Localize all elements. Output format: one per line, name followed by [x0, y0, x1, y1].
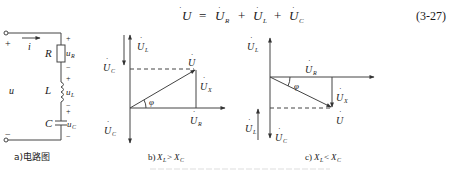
svg-text:·: · — [193, 107, 195, 116]
equation: U · = U · R + U · L + U · C (3-27) — [179, 3, 446, 25]
label-uc-c: U — [275, 132, 283, 143]
label-uc-c-sub: C — [283, 138, 288, 144]
uc-sub: C — [72, 124, 77, 130]
eq-lhs: U — [182, 8, 193, 23]
ul-plus: + — [66, 74, 71, 83]
label-u-c: U — [336, 115, 344, 126]
eq-plus-1: + — [238, 8, 245, 23]
eq-term-uc-sub: C — [299, 17, 304, 25]
caption-b-prefix: b) — [148, 152, 156, 162]
ul-sub: L — [70, 92, 75, 98]
label-ul-sub: L — [144, 47, 149, 53]
label-uc-bottom: U — [104, 125, 112, 136]
resistor-symbol — [57, 45, 65, 62]
label-uc-top: U — [103, 62, 111, 73]
svg-text:·: · — [339, 107, 342, 116]
caption-c-lhs: X — [313, 152, 320, 162]
source-voltage-label: u — [9, 85, 14, 96]
label-ux-sub: X — [207, 87, 212, 93]
caption-c-op: < — [324, 152, 329, 162]
label-uc-bottom-sub: C — [112, 131, 117, 137]
svg-text:·: · — [292, 3, 295, 12]
label-ul: U — [137, 41, 145, 52]
label-ul-bottom-c-sub: L — [252, 129, 257, 135]
current-label: i — [28, 41, 31, 52]
label-ur-c: U — [305, 64, 313, 75]
svg-text:·: · — [107, 117, 109, 126]
svg-text:·: · — [218, 3, 221, 12]
label-phi: φ — [149, 97, 154, 107]
caption-b-lhs: X — [156, 152, 163, 162]
caption-c-prefix: c) — [305, 152, 312, 162]
svg-text:·: · — [140, 33, 142, 42]
svg-text:·: · — [339, 84, 342, 93]
terminal-plus: + — [5, 38, 11, 49]
label-ul-bottom-c: U — [245, 123, 253, 134]
equation-number: (3-27) — [416, 9, 446, 23]
eq-term-ul-sub: L — [262, 17, 267, 25]
label-ux-c: U — [336, 92, 344, 103]
caption-a: a)电路图 — [14, 151, 50, 162]
ur-plus: + — [66, 34, 71, 43]
phasor-diagram-c — [258, 38, 374, 140]
label-ul-top-c: U — [247, 41, 255, 52]
uc-plus: + — [66, 107, 71, 116]
ur-sub: R — [70, 53, 75, 59]
svg-text:·: · — [248, 115, 251, 124]
eq-plus-2: + — [274, 8, 281, 23]
caption-b-rhs: X — [173, 152, 180, 162]
u-phasor — [130, 70, 195, 108]
phasor-dot: · — [179, 3, 182, 12]
ur-minus: − — [66, 63, 71, 72]
svg-text:·: · — [308, 56, 311, 65]
label-phi-c: φ — [294, 81, 299, 91]
terminal-minus: − — [5, 129, 11, 140]
label-ux: U — [200, 81, 208, 92]
phi-arc — [144, 100, 146, 108]
label-ur: U — [190, 115, 198, 126]
svg-text:·: · — [203, 73, 205, 82]
caption-b: b) X L > X C — [148, 152, 185, 163]
capacitor-label: C — [45, 117, 53, 129]
caption-b-rhs-sub: C — [180, 157, 185, 163]
svg-text:·: · — [106, 54, 108, 63]
label-ur-c-sub: R — [312, 70, 317, 76]
u-phasor-c — [270, 77, 331, 107]
phi-arc-c — [288, 77, 290, 86]
svg-text:·: · — [278, 124, 281, 133]
caption-c: c) X L < X C — [305, 152, 342, 163]
caption-c-rhs: X — [330, 152, 337, 162]
svg-text:·: · — [250, 33, 253, 42]
terminal-top — [4, 31, 8, 35]
svg-text:·: · — [256, 3, 259, 12]
label-ul-top-c-sub: L — [254, 47, 259, 53]
caption-b-op: > — [167, 152, 172, 162]
svg-text:·: · — [191, 50, 193, 59]
label-uc-top-sub: C — [111, 68, 116, 74]
uc-minus: − — [66, 132, 71, 141]
eq-term-ur-sub: R — [224, 17, 230, 25]
caption-c-rhs-sub: C — [337, 157, 342, 163]
eq-equals: = — [199, 8, 206, 23]
figure: U · = U · R + U · L + U · C (3-27) — [0, 0, 464, 170]
inductor-symbol — [61, 82, 64, 102]
label-ux-c-sub: X — [343, 98, 348, 104]
label-ur-sub: R — [197, 121, 202, 127]
resistor-label: R — [44, 47, 52, 59]
inductor-label: L — [44, 84, 51, 96]
